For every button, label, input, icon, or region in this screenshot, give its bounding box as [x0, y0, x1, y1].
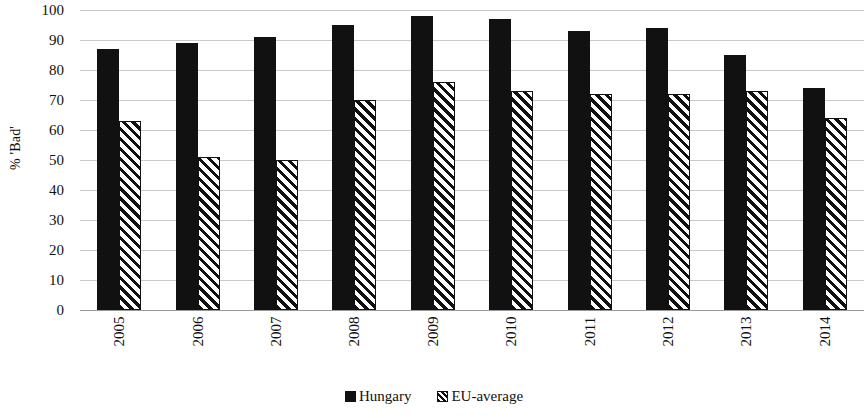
legend-label: Hungary [359, 388, 412, 405]
y-axis-tick-label: 10 [49, 272, 64, 289]
bar-hungary-2010 [489, 19, 511, 310]
x-axis-tick-labels: 2005200620072008200920102011201220132014 [80, 311, 864, 381]
bar-eu-average-2005 [119, 121, 141, 310]
y-axis-tick-label: 60 [49, 122, 64, 139]
bar-eu-average-2007 [276, 160, 298, 310]
y-axis-tick-label: 0 [57, 302, 65, 319]
bar-hungary-2012 [646, 28, 668, 310]
x-axis-tick-label-2014: 2014 [816, 304, 833, 360]
plot-area [80, 10, 864, 310]
y-axis-tick-label: 80 [49, 62, 64, 79]
bars-layer [80, 10, 864, 310]
y-axis-tick-label: 30 [49, 212, 64, 229]
x-axis-tick-label-2006: 2006 [189, 304, 206, 360]
bar-hungary-2009 [411, 16, 433, 310]
bar-eu-average-2013 [746, 91, 768, 310]
y-axis-tick-labels: 0102030405060708090100 [0, 10, 74, 310]
bar-eu-average-2011 [590, 94, 612, 310]
y-axis-tick-label: 40 [49, 182, 64, 199]
bar-eu-average-2008 [354, 100, 376, 310]
bar-hungary-2013 [724, 55, 746, 310]
bar-eu-average-2010 [511, 91, 533, 310]
x-axis-tick-label-2010: 2010 [503, 304, 520, 360]
chart-legend: HungaryEU-average [0, 388, 868, 405]
x-axis-tick-label-2013: 2013 [738, 304, 755, 360]
y-axis-tick-label: 90 [49, 32, 64, 49]
bar-hungary-2014 [803, 88, 825, 310]
legend-swatch-icon [345, 391, 356, 402]
y-axis-tick-label: 20 [49, 242, 64, 259]
legend-label: EU-average [451, 388, 523, 405]
y-axis-tick-label: 70 [49, 92, 64, 109]
x-axis-tick-label-2008: 2008 [346, 304, 363, 360]
x-axis-tick-label-2012: 2012 [660, 304, 677, 360]
bar-chart: % 'Bad' 0102030405060708090100 200520062… [0, 0, 868, 418]
bar-eu-average-2006 [198, 157, 220, 310]
legend-entry-eu-average: EU-average [437, 388, 523, 405]
legend-entry-hungary: Hungary [345, 388, 412, 405]
x-axis-tick-label-2007: 2007 [268, 304, 285, 360]
bar-hungary-2005 [97, 49, 119, 310]
bar-eu-average-2012 [668, 94, 690, 310]
bar-hungary-2011 [568, 31, 590, 310]
bar-eu-average-2014 [825, 118, 847, 310]
x-axis-tick-label-2009: 2009 [424, 304, 441, 360]
legend-swatch-icon [437, 391, 448, 402]
y-axis-tick-label: 100 [42, 2, 65, 19]
x-axis-tick-label-2005: 2005 [111, 304, 128, 360]
x-axis-tick-label-2011: 2011 [581, 304, 598, 360]
y-axis-tick-label: 50 [49, 152, 64, 169]
bar-hungary-2008 [332, 25, 354, 310]
bar-hungary-2006 [176, 43, 198, 310]
bar-hungary-2007 [254, 37, 276, 310]
bar-eu-average-2009 [433, 82, 455, 310]
